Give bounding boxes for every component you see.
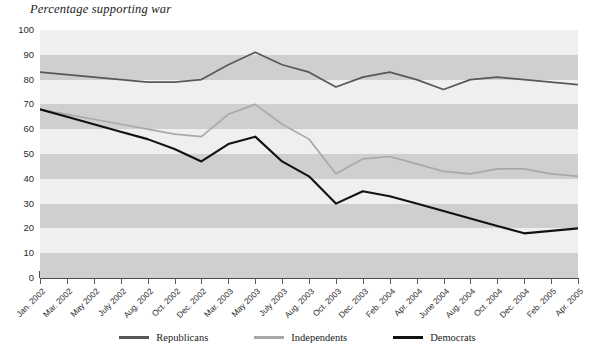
x-axis-tick (94, 278, 95, 284)
x-axis-tick (336, 278, 337, 284)
legend-swatch-icon (254, 336, 284, 338)
y-axis-tick-label: 80 (6, 74, 34, 85)
x-axis-tick (470, 278, 471, 284)
y-axis-tick-label: 70 (6, 98, 34, 109)
y-axis-tick-label: 100 (6, 24, 34, 35)
x-axis-tick (67, 278, 68, 284)
x-axis-tick (497, 278, 498, 284)
x-axis-tick (282, 278, 283, 284)
y-axis-tick-label: 40 (6, 173, 34, 184)
y-axis-tick-label: 20 (6, 222, 34, 233)
legend-item-independents[interactable]: Independents (254, 332, 347, 343)
y-axis-tick-label: 30 (6, 198, 34, 209)
y-axis-tick-label: 0 (6, 272, 34, 283)
series-lines (40, 30, 578, 278)
x-axis-tick (228, 278, 229, 284)
legend-label: Republicans (156, 332, 208, 343)
legend-label: Independents (291, 332, 347, 343)
x-axis-tick (417, 278, 418, 284)
y-axis-tick-label: 50 (6, 148, 34, 159)
x-axis-tick (201, 278, 202, 284)
x-axis-tick (309, 278, 310, 284)
chart-root: Percentage supporting war 10090807060504… (0, 0, 595, 360)
y-axis-tick-label: 10 (6, 247, 34, 258)
line-series-independents (40, 104, 578, 176)
line-series-democrats (40, 109, 578, 233)
legend-label: Democrats (430, 332, 475, 343)
y-axis-tick-label: 60 (6, 123, 34, 134)
plot-area (40, 30, 578, 278)
x-axis-tick (121, 278, 122, 284)
legend-swatch-icon (119, 336, 149, 338)
legend-item-democrats[interactable]: Democrats (393, 332, 475, 343)
x-axis-tick (551, 278, 552, 284)
x-axis-tick (524, 278, 525, 284)
x-axis-tick (444, 278, 445, 284)
x-axis-tick (175, 278, 176, 284)
line-series-republicans (40, 52, 578, 89)
x-axis-tick (40, 278, 41, 284)
x-axis-tick (578, 278, 579, 284)
chart-title: Percentage supporting war (30, 2, 171, 17)
x-axis-tick (148, 278, 149, 284)
chart-legend: RepublicansIndependentsDemocrats (0, 332, 595, 343)
y-axis-tick-label: 90 (6, 49, 34, 60)
legend-item-republicans[interactable]: Republicans (119, 332, 208, 343)
x-axis-tick (363, 278, 364, 284)
x-axis-tick (390, 278, 391, 284)
x-axis-tick (255, 278, 256, 284)
legend-swatch-icon (393, 336, 423, 339)
